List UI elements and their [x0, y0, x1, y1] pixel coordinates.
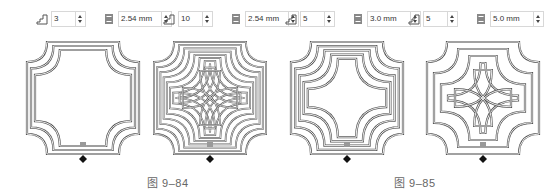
node-marker-icon — [343, 155, 351, 163]
spacing-input[interactable]: 5.0 mm — [490, 11, 534, 27]
loops-input[interactable]: 3 — [51, 11, 76, 27]
figure-caption-9-85: 图 9–85 — [394, 174, 436, 190]
spacing-stepper[interactable]: 5.0 mm — [490, 11, 544, 27]
spacing-icon — [230, 13, 242, 25]
spiral-coil-figure-3 — [282, 40, 412, 168]
step-icon — [36, 13, 48, 25]
node-marker-icon — [206, 155, 214, 163]
loops-stepper[interactable]: 3 — [51, 11, 86, 27]
loops-stepper[interactable]: 10 — [178, 11, 213, 27]
loops-spin-button[interactable] — [203, 11, 213, 27]
terminal-pad-icon — [344, 142, 350, 147]
toolbar-2: 10 2.54 mm — [163, 11, 299, 27]
node-marker-icon — [479, 155, 487, 163]
terminal-pad-icon — [80, 142, 86, 147]
step-icon — [163, 13, 175, 25]
figure-caption-9-84: 图 9–84 — [147, 174, 189, 190]
loops-spin-button[interactable] — [325, 11, 335, 27]
spacing-icon — [475, 13, 487, 25]
spacing-input[interactable]: 3.0 mm — [367, 11, 411, 27]
step-icon — [285, 13, 297, 25]
loops-input[interactable]: 5 — [300, 11, 325, 27]
loops-stepper[interactable]: 5 — [300, 11, 335, 27]
terminal-pad-icon — [207, 142, 213, 147]
loops-input[interactable]: 10 — [178, 11, 203, 27]
spacing-input[interactable]: 2.54 mm — [118, 11, 162, 27]
loops-input[interactable]: 5 — [423, 11, 448, 27]
loops-spin-button[interactable] — [448, 11, 458, 27]
toolbar-3: 5 3.0 mm — [285, 11, 421, 27]
spacing-icon — [352, 13, 364, 25]
toolbar-1: 3 2.54 mm — [36, 11, 172, 27]
spiral-coil-figure-1 — [18, 40, 148, 168]
step-icon — [408, 13, 420, 25]
loops-stepper[interactable]: 5 — [423, 11, 458, 27]
spiral-coil-figure-2 — [145, 40, 275, 168]
spacing-input[interactable]: 2.54 mm — [245, 11, 289, 27]
terminal-pad-icon — [480, 142, 486, 147]
node-marker-icon — [79, 155, 87, 163]
spiral-coil-figure-4 — [418, 40, 548, 168]
spacing-icon — [103, 13, 115, 25]
spacing-spin-button[interactable] — [534, 11, 544, 27]
loops-spin-button[interactable] — [76, 11, 86, 27]
toolbar-4: 5 5.0 mm — [408, 11, 544, 27]
